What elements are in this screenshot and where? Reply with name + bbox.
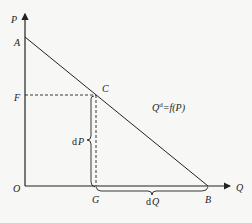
point-c-label: C [102, 83, 109, 94]
point-f-label: F [13, 92, 21, 103]
dq-label: dQ [146, 196, 160, 207]
demand-diagram: P A F C O G B Q dP dQ Qd=f(P) [0, 0, 252, 223]
quantity-axis-label: Q [236, 182, 244, 193]
brace-dp [87, 96, 95, 187]
point-g-label: G [92, 194, 99, 205]
brace-dq [96, 187, 208, 195]
point-b-label: B [205, 194, 211, 205]
point-a-label: A [13, 37, 21, 48]
origin-label: O [13, 183, 20, 194]
dp-label: dP [72, 136, 84, 147]
demand-function-label: Qd=f(P) [152, 101, 186, 114]
price-axis-label: P [10, 14, 17, 25]
